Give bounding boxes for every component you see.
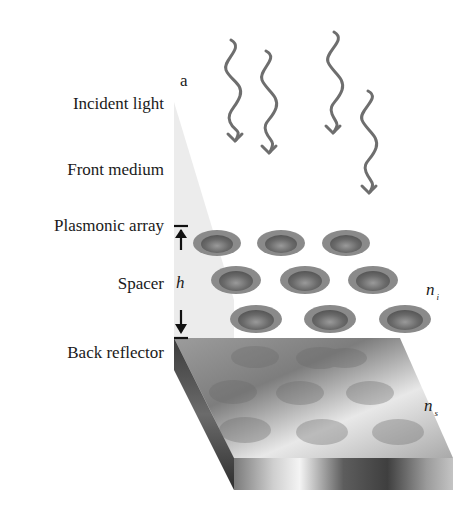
- back-reflector-slab: [174, 338, 453, 490]
- particle-row-3: [230, 305, 431, 333]
- label-plasmonic-array: Plasmonic array: [54, 217, 164, 234]
- particle-row-2: [211, 266, 398, 294]
- refractive-index-i: ni: [426, 280, 439, 300]
- wavy-arrow-icon: [362, 91, 377, 192]
- wavy-arrow-icon: [226, 40, 241, 140]
- wavy-arrow-icon: [328, 32, 343, 132]
- label-spacer: Spacer: [118, 275, 164, 292]
- label-front-medium: Front medium: [67, 161, 164, 178]
- label-incident-light: Incident light: [73, 95, 164, 112]
- incident-light-rays: [226, 32, 377, 193]
- particle-row-1: [193, 230, 370, 256]
- refractive-index-s: ns: [424, 396, 438, 416]
- diagram-canvas: a Incident light Front medium Plasmonic …: [0, 0, 474, 517]
- wavy-arrow-icon: [262, 51, 277, 152]
- spacer-thickness-symbol: h: [176, 274, 185, 291]
- panel-label: a: [180, 72, 188, 89]
- diagram-graphics: [0, 0, 474, 517]
- label-back-reflector: Back reflector: [67, 344, 164, 361]
